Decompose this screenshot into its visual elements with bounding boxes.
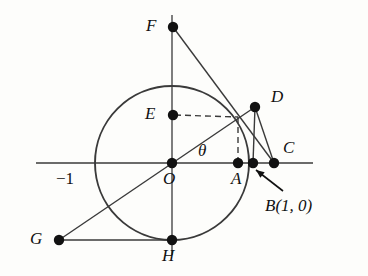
label-point-C: C <box>283 139 294 156</box>
label-point-H: H <box>162 247 174 264</box>
point-F[interactable] <box>168 22 178 32</box>
point-E[interactable] <box>168 110 178 120</box>
figure-canvas: FDECB(1, 0)AOGHθ−1 <box>0 0 368 276</box>
label-point-A: A <box>231 170 241 187</box>
angle-theta-label: θ <box>198 142 206 159</box>
point-C[interactable] <box>269 158 279 168</box>
segment-D-to-C <box>255 107 274 163</box>
dashed-E-to-tangent-point <box>175 115 238 117</box>
geometry-diagram <box>0 0 368 276</box>
label-point-O: O <box>163 170 175 187</box>
point-G[interactable] <box>54 235 64 245</box>
point-O[interactable] <box>167 158 177 168</box>
label-point-F: F <box>146 17 156 34</box>
segment-F-to-C <box>173 27 274 163</box>
segment-D-to-B <box>253 107 255 163</box>
label-point-E: E <box>145 105 155 122</box>
point-H[interactable] <box>167 235 177 245</box>
segment-G-to-D <box>59 107 255 240</box>
label-point-B: B(1, 0) <box>265 197 312 214</box>
label-point-D: D <box>271 88 283 105</box>
x-axis-tick-label-minus-one: −1 <box>56 170 74 187</box>
point-D[interactable] <box>250 102 260 112</box>
label-point-G: G <box>30 230 42 247</box>
point-A[interactable] <box>233 158 243 168</box>
point-B[interactable] <box>248 158 258 168</box>
